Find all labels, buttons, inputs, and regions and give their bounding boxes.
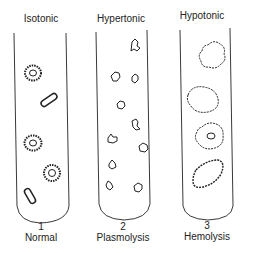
- tube-1-outline: [14, 33, 69, 223]
- normal-cells: [23, 66, 60, 205]
- tube-3-number: 3: [165, 220, 249, 231]
- tube-3-caption: Hemolysis: [165, 231, 249, 242]
- plasmolysed-cells: [106, 39, 148, 192]
- hemolysed-cells: [187, 42, 225, 188]
- test-tubes-diagram: [0, 0, 253, 253]
- tube-2-outline: [96, 30, 150, 220]
- tube-1-number: 1: [0, 221, 83, 232]
- tube-2-caption: Plasmolysis: [81, 232, 165, 243]
- tube-2-number: 2: [81, 221, 165, 232]
- tube-1-caption: Normal: [0, 232, 83, 243]
